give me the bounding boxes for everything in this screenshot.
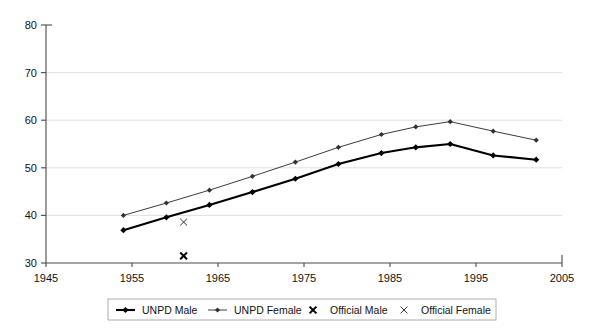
- data-point-marker: [335, 161, 341, 167]
- data-point-marker: [293, 159, 298, 164]
- legend-item-label: Official Male: [330, 304, 388, 316]
- y-axis-tick-label: 80: [25, 19, 37, 31]
- x-axis-tick-label: 1985: [378, 272, 402, 284]
- data-point-marker: [120, 227, 126, 233]
- y-axis-tick-label: 50: [25, 162, 37, 174]
- series-official-female: [180, 219, 187, 226]
- chart-legend: UNPD MaleUNPD FemaleOfficial MaleOfficia…: [108, 299, 496, 320]
- x-axis-tick-label: 1995: [464, 272, 488, 284]
- data-point-marker: [491, 129, 496, 134]
- chart-container: 304050607080 194519551965197519851995200…: [0, 0, 603, 330]
- x-marker: [180, 252, 187, 259]
- x-axis-labels: 1945195519651975198519952005: [34, 272, 574, 284]
- data-point-marker: [533, 157, 539, 163]
- x-axis-tick-label: 1945: [34, 272, 58, 284]
- series-line: [123, 144, 536, 230]
- data-point-marker: [206, 202, 212, 208]
- legend-item-label: UNPD Male: [142, 304, 198, 316]
- data-point-marker: [490, 152, 496, 158]
- series-unpd-male: [120, 141, 539, 233]
- x-tick-marks: [46, 263, 562, 267]
- data-point-marker: [164, 200, 169, 205]
- y-axis-tick-label: 70: [25, 67, 37, 79]
- data-point-marker: [534, 138, 539, 143]
- series-unpd-female: [121, 119, 539, 218]
- legend-item-label: Official Female: [421, 304, 491, 316]
- legend-item-label: UNPD Female: [234, 304, 302, 316]
- data-point-marker: [249, 189, 255, 195]
- data-point-marker: [447, 141, 453, 147]
- x-marker: [180, 219, 187, 226]
- series-official-male: [180, 252, 187, 259]
- x-axis-tick-label: 1955: [120, 272, 144, 284]
- y-axis-tick-label: 60: [25, 114, 37, 126]
- x-axis-tick-label: 1975: [292, 272, 316, 284]
- data-point-marker: [336, 145, 341, 150]
- grid-lines: [46, 73, 562, 216]
- data-point-marker: [378, 150, 384, 156]
- line-chart: 304050607080 194519551965197519851995200…: [0, 0, 603, 330]
- y-axis-tick-label: 30: [25, 257, 37, 269]
- y-axis-tick-label: 40: [25, 209, 37, 221]
- series-line: [123, 122, 536, 216]
- data-point-marker: [292, 176, 298, 182]
- data-point-marker: [207, 188, 212, 193]
- data-point-marker: [250, 174, 255, 179]
- y-axis-labels: 304050607080: [25, 19, 37, 269]
- data-point-marker: [413, 144, 419, 150]
- x-axis-tick-label: 2005: [550, 272, 574, 284]
- data-point-marker: [121, 213, 126, 218]
- x-axis-tick-label: 1965: [206, 272, 230, 284]
- data-point-marker: [379, 132, 384, 137]
- y-tick-marks: [41, 25, 46, 263]
- data-point-marker: [413, 124, 418, 129]
